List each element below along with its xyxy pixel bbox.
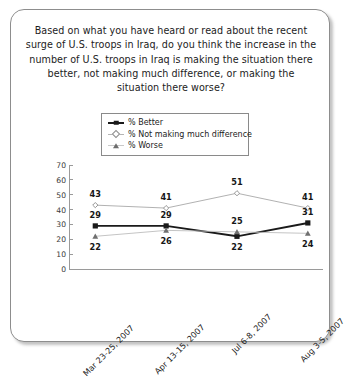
line-chart: 010203040506070 434151412929223122262524… — [47, 165, 323, 277]
data-point-label: 41 — [302, 192, 313, 202]
data-point-label: 31 — [302, 207, 313, 217]
data-point-label: 29 — [160, 210, 171, 220]
y-axis-tick-label: 20 — [56, 235, 70, 244]
x-axis-tick-label: Mar 23-25, 2007 — [81, 323, 136, 378]
series-line — [95, 223, 308, 236]
chart-card: Based on what you have heard or read abo… — [10, 9, 330, 342]
data-point-label: 24 — [302, 239, 313, 249]
y-axis-tick-label: 0 — [61, 265, 70, 274]
data-point-label: 26 — [160, 236, 171, 246]
square-marker-icon — [107, 117, 125, 128]
triangle-marker-icon — [107, 140, 125, 151]
legend-item-worse[interactable]: % Worse — [107, 140, 244, 152]
square-marker-icon — [234, 234, 239, 239]
data-point-label: 51 — [231, 177, 242, 187]
diamond-marker-icon — [93, 203, 98, 208]
x-axis-tick-label: Jul 6-8, 2007 — [229, 312, 273, 356]
x-axis-tick-label: Apr 13-15, 2007 — [153, 322, 207, 376]
data-point-label: 29 — [90, 210, 101, 220]
series-line — [95, 230, 308, 236]
diamond-marker-icon — [234, 191, 239, 196]
survey-question-text: Based on what you have heard or read abo… — [25, 24, 317, 95]
legend-label: % Worse — [128, 141, 163, 150]
y-axis-tick-label: 10 — [56, 250, 70, 259]
data-point-label: 43 — [90, 189, 101, 199]
legend-item-not-making-much-difference[interactable]: % Not making much difference — [107, 129, 244, 141]
y-axis-tick-label: 40 — [56, 205, 70, 214]
x-axis-tick-label: Aug 3-5, 2007 — [298, 316, 346, 364]
data-point-label: 41 — [160, 192, 171, 202]
chart-plot-lines — [70, 165, 323, 269]
diamond-marker-icon — [107, 129, 125, 140]
y-axis-tick-label: 30 — [56, 220, 70, 229]
legend-item-better[interactable]: % Better — [107, 117, 244, 129]
y-axis-tick-label: 70 — [56, 161, 70, 170]
y-axis-tick-label: 50 — [56, 190, 70, 199]
chart-axes: 010203040506070 434151412929223122262524… — [69, 165, 323, 270]
series-line — [95, 193, 308, 208]
legend-label: % Better — [128, 118, 163, 127]
chart-legend: % Better % Not making much difference % … — [101, 113, 249, 156]
data-point-label: 22 — [231, 242, 242, 252]
square-marker-icon — [305, 220, 310, 225]
square-marker-icon — [93, 223, 98, 228]
data-point-label: 22 — [90, 242, 101, 252]
legend-label: % Not making much difference — [128, 130, 252, 139]
y-axis-tick-label: 60 — [56, 175, 70, 184]
data-point-label: 25 — [231, 216, 242, 226]
